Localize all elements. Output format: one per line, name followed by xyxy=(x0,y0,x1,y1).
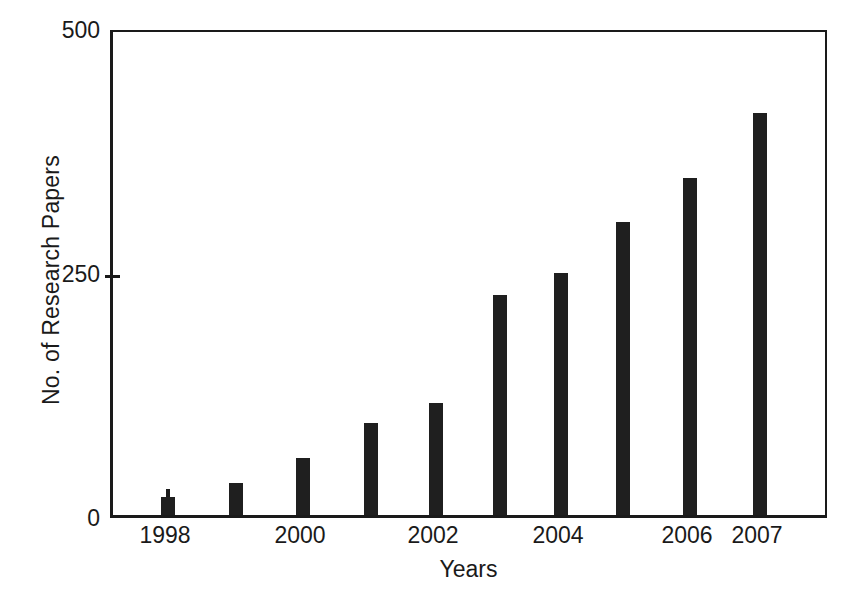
bar-2007 xyxy=(753,113,767,515)
x-tick-label-2000: 2000 xyxy=(274,524,325,547)
bar-1998 xyxy=(161,497,175,515)
x-tick-label-2004: 2004 xyxy=(532,524,583,547)
y-tick-label-250: 250 xyxy=(44,263,100,286)
y-tick-label-500: 500 xyxy=(44,19,100,42)
y-tick-mark-250 xyxy=(105,275,120,278)
bar-1999 xyxy=(229,483,243,515)
bar-2005 xyxy=(616,222,630,515)
x-tick-label-2002: 2002 xyxy=(407,524,458,547)
bar-2004 xyxy=(554,273,568,515)
x-tick-label-2007: 2007 xyxy=(731,524,782,547)
bar-2001 xyxy=(364,423,378,515)
bar-2002 xyxy=(429,403,443,515)
bar-chart-figure: No. of Research Papers 500 250 0 xyxy=(0,0,849,596)
bar-2000 xyxy=(296,458,310,515)
plot-area xyxy=(110,30,827,518)
x-axis-title: Years xyxy=(110,556,827,583)
bar-2006 xyxy=(683,178,697,515)
x-tick-label-1998: 1998 xyxy=(139,524,190,547)
x-tick-label-2006: 2006 xyxy=(661,524,712,547)
y-tick-label-0: 0 xyxy=(44,507,100,530)
bar-2003 xyxy=(493,295,507,515)
